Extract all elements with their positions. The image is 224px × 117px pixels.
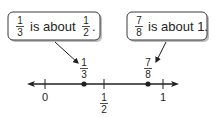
point-label-numerator: 7 bbox=[145, 57, 151, 68]
callout-pointer-arrow bbox=[55, 42, 78, 63]
callout-one-third: 1 3 is about 1 2 . bbox=[8, 12, 102, 42]
callout-seven-eighths: 7 8 is about 1. bbox=[127, 12, 209, 42]
tick-label-one: 1 bbox=[160, 91, 166, 103]
tick-label-half-denominator: 2 bbox=[101, 104, 107, 115]
number-line-diagram: 1 3 is about 1 2 . 7 8 is about 1. 0 1 2… bbox=[0, 0, 224, 117]
point-label-denominator: 8 bbox=[145, 69, 151, 80]
callout-target-denominator: 2 bbox=[83, 27, 89, 38]
point-label-numerator: 1 bbox=[81, 57, 87, 68]
callout-text: is about 1. bbox=[148, 19, 208, 34]
callout-fraction-denominator: 3 bbox=[17, 27, 23, 38]
point-one-third bbox=[81, 81, 86, 86]
callout-fraction-numerator: 7 bbox=[136, 15, 142, 26]
callout-pointer-arrow bbox=[156, 42, 166, 62]
tick-label-zero: 0 bbox=[42, 91, 48, 103]
callout-text: is about bbox=[30, 19, 76, 34]
point-seven-eighths bbox=[145, 81, 150, 86]
number-line: 0 1 2 1 1 3 7 8 bbox=[27, 57, 179, 115]
tick-label-half-numerator: 1 bbox=[101, 92, 107, 103]
callout-fraction-numerator: 1 bbox=[17, 15, 23, 26]
callout-fraction-denominator: 8 bbox=[136, 27, 142, 38]
callout-period: . bbox=[92, 19, 96, 34]
callout-target-numerator: 1 bbox=[83, 15, 89, 26]
point-label-denominator: 3 bbox=[81, 69, 87, 80]
